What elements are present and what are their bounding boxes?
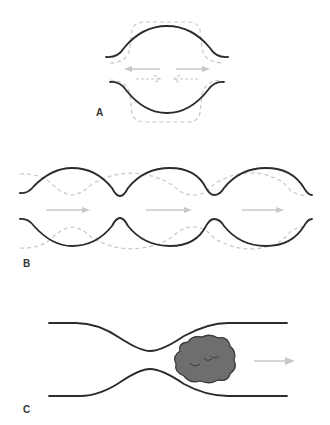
panel-a-label: A: [96, 107, 103, 118]
panel-c-arrow-head: [285, 357, 295, 365]
panel-c-wall-top: [49, 323, 287, 351]
panel-b-arrow-2-head: [184, 207, 192, 213]
panel-b-label: B: [23, 258, 30, 269]
panel-a-diagram: [106, 22, 228, 122]
panel-b-diagram: [20, 168, 312, 249]
figure-canvas: [0, 0, 330, 425]
panel-c-label: C: [23, 404, 30, 415]
panel-b-arrow-3-head: [276, 207, 284, 213]
panel-a-wall-top: [106, 26, 228, 57]
panel-a-arrow-right-head: [202, 66, 210, 72]
panel-a-ghost-bottom: [110, 80, 222, 122]
panel-c-diagram: [49, 323, 295, 396]
panel-c-wall-bottom: [49, 369, 287, 396]
panel-a-wall-bottom: [110, 82, 224, 113]
panel-b-wall-top: [20, 168, 312, 196]
panel-b-arrow-1-head: [82, 207, 90, 213]
panel-b-ghost-top: [20, 173, 306, 195]
panel-b-wall-bottom: [20, 218, 312, 246]
panel-a-arrow-left-head: [124, 66, 132, 72]
